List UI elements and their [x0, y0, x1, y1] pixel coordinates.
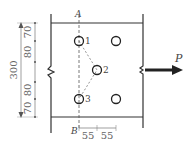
bolt-hole-5 — [112, 95, 121, 104]
dimension-80-lower: 80 — [22, 84, 33, 97]
right-plate-edge — [140, 14, 143, 128]
bolt-hole-4 — [112, 37, 121, 46]
dimension-300: 300 — [8, 60, 19, 79]
force-arrow — [145, 65, 183, 75]
hole-label-2: 2 — [103, 65, 109, 75]
dimension-55-right: 55 — [101, 130, 114, 141]
dimension-80-upper: 80 — [22, 46, 33, 59]
failure-path-123 — [79, 41, 97, 99]
plate-connection-diagram: P A B 1 2 3 300 70 80 80 70 55 — [0, 0, 186, 153]
dimension-chain-vertical — [34, 22, 36, 118]
left-plate-edge — [48, 14, 54, 133]
dimension-70-bottom: 70 — [22, 102, 33, 115]
bolt-hole-2 — [93, 66, 102, 75]
hole-label-1: 1 — [85, 36, 91, 46]
hole-label-3: 3 — [85, 94, 91, 104]
dimension-55-left: 55 — [82, 130, 95, 141]
dimension-70-top: 70 — [22, 26, 33, 39]
force-label: P — [174, 52, 183, 65]
section-label-a: A — [74, 9, 82, 19]
section-label-b: B — [70, 126, 78, 136]
